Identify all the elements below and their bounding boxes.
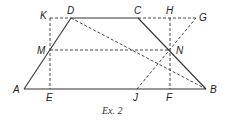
segment-AD [24, 18, 71, 89]
figure-caption: Ex. 2 [101, 105, 123, 116]
label-K: K [40, 10, 48, 21]
label-J: J [132, 92, 139, 103]
segment-CB [138, 18, 206, 89]
label-M: M [37, 45, 46, 56]
label-B: B [210, 84, 217, 95]
label-C: C [134, 5, 142, 16]
label-H: H [166, 5, 174, 16]
label-E: E [46, 92, 53, 103]
label-D: D [67, 5, 74, 16]
label-F: F [166, 92, 173, 103]
segment-DB-dashed [71, 18, 206, 89]
label-G: G [199, 12, 207, 23]
label-N: N [176, 45, 184, 56]
trapezoid-diagram: K D C H G M N A E J F B Ex. 2 [0, 0, 231, 120]
label-A: A [12, 84, 20, 95]
segment-JG-dashed [137, 18, 196, 89]
